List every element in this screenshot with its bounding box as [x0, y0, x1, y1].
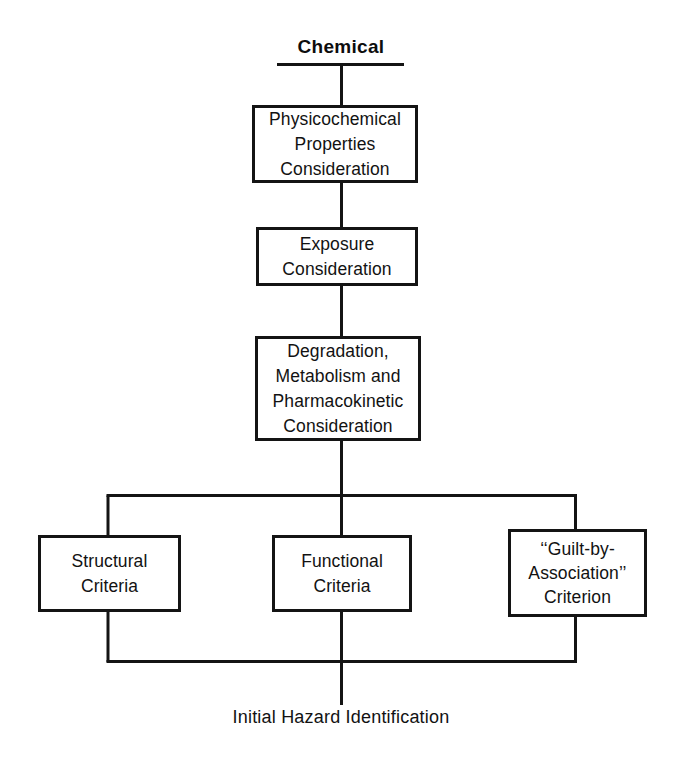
flowchart-diagram: Chemical Physicochemical Properties Cons… [0, 0, 683, 761]
node-guilt-by-association-criterion: ‘‘Guilt-by- Association’’ Criterion [508, 529, 647, 617]
chemical-title: Chemical [246, 36, 436, 58]
node-functional-criteria: Functional Criteria [272, 535, 412, 612]
node-functional-label: Functional Criteria [297, 549, 387, 599]
node-guilt-label: ‘‘Guilt-by- Association’’ Criterion [524, 537, 630, 609]
outcome-initial-hazard-identification: Initial Hazard Identification [141, 707, 541, 728]
node-degradation-metabolism-pharmacokinetic-consideration: Degradation, Metabolism and Pharmacokine… [255, 336, 421, 441]
node-exposure-consideration: Exposure Consideration [256, 227, 418, 286]
node-physicochemical-properties-consideration: Physicochemical Properties Consideration [252, 105, 418, 183]
node-degradation-label: Degradation, Metabolism and Pharmacokine… [269, 339, 408, 439]
node-structural-criteria: Structural Criteria [38, 535, 181, 612]
node-exposure-label: Exposure Consideration [278, 232, 395, 282]
node-structural-label: Structural Criteria [68, 549, 152, 599]
node-physicochemical-label: Physicochemical Properties Consideration [265, 107, 405, 182]
